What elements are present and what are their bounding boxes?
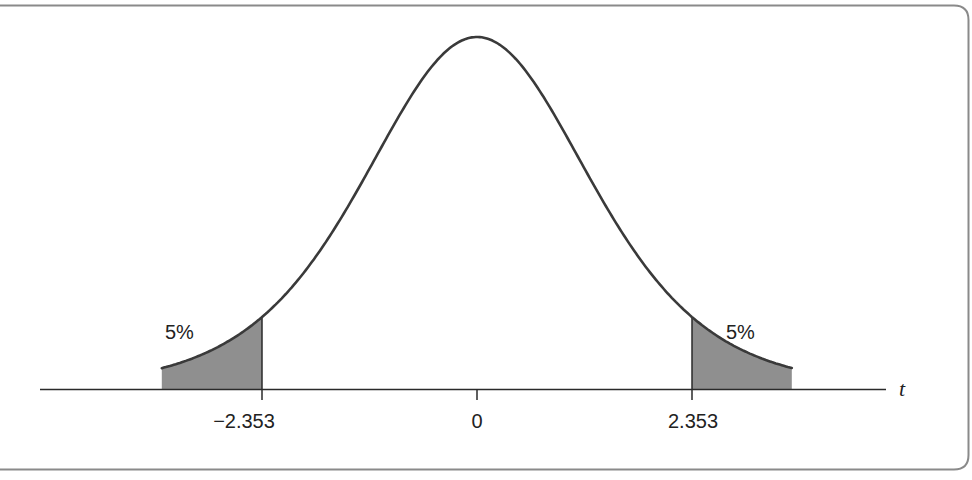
density-curve (162, 37, 792, 368)
x-axis-variable-label: t (899, 376, 906, 401)
tick-label-zero: 0 (471, 410, 482, 432)
t-distribution-chart: 5% 5% −2.353 0 2.353 t (0, 0, 972, 480)
figure-frame (0, 6, 969, 470)
left-tail-percent-label: 5% (165, 321, 194, 343)
right-tail-percent-label: 5% (726, 321, 755, 343)
tick-label-right-critical: 2.353 (668, 410, 718, 432)
tick-label-left-critical: −2.353 (213, 410, 275, 432)
